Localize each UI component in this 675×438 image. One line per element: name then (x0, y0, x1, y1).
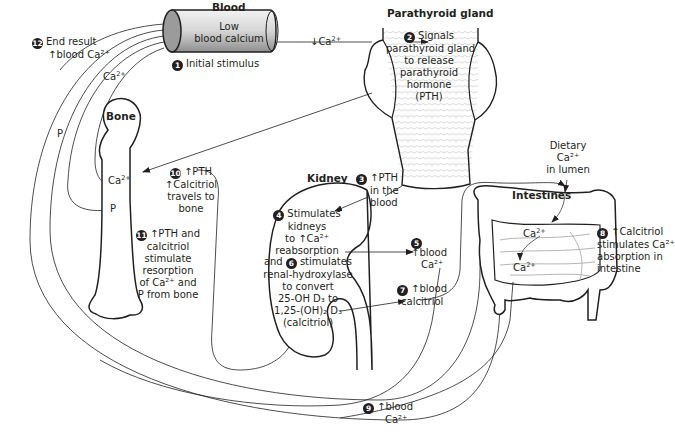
step-number-badge: 4 (273, 210, 284, 221)
low-ca-label: ↓Ca2+ (310, 36, 341, 48)
bone-p-label: P (110, 203, 116, 215)
intestine-ca-label-2: Ca2+ (513, 262, 536, 274)
low-blood-calcium-label: Low blood calcium (184, 21, 274, 45)
step-9: 9↑blood Ca²⁺ (363, 401, 413, 426)
intestines-illustration (474, 186, 617, 320)
step-12: 12End result ↑blood Ca²⁺ (32, 36, 110, 61)
step-number-badge: 6 (286, 258, 297, 269)
step-4: 4Stimulates kidneys to ↑Ca²⁺ reabsorptio… (262, 208, 352, 257)
parathyroid-title: Parathyroid gland (387, 7, 493, 19)
bone-title: Bone (106, 110, 136, 122)
phosphate-label-arc: P (57, 128, 63, 140)
step-number-badge: 3 (356, 174, 367, 185)
step-1: 1Initial stimulus (172, 58, 259, 71)
step-3: 3↑PTH in the blood (356, 172, 399, 209)
step-10: 10↑PTH ↑Calcitriol travels to bone (158, 166, 224, 215)
step-2: 2Signals parathyroid gland to release pa… (386, 30, 472, 103)
ca-ion-label: Ca2+ (103, 71, 126, 83)
step-7: 7↑blood calcitriol (397, 283, 447, 308)
step-number-badge: 9 (363, 403, 374, 414)
step-number-badge: 10 (170, 168, 181, 179)
step-number-badge: 8 (597, 228, 608, 239)
step-6: and 6stimulates renal-hydroxylase to con… (256, 256, 360, 329)
step-number-badge: 7 (397, 285, 408, 296)
step-8: 8↑Calcitriol stimulates Ca²⁺ absorption … (597, 226, 675, 275)
intestine-ca-label-1: Ca2+ (523, 228, 546, 240)
step-number-badge: 11 (136, 230, 147, 241)
step-number-badge: 1 (172, 60, 183, 71)
step-5: 5 ↑blood Ca²⁺ (411, 236, 447, 271)
bone-ca-label: Ca2+ (108, 175, 131, 187)
intestines-title: Intestines (512, 189, 571, 201)
step-11: 11↑PTH and calcitriol stimulate resorpti… (128, 228, 208, 301)
step-number-badge: 2 (404, 32, 415, 43)
kidney-title: Kidney (307, 172, 348, 184)
blood-title: Blood (212, 1, 246, 13)
step-number-badge: 12 (32, 38, 43, 49)
dietary-ca-label: Dietary Ca²⁺ in lumen (543, 140, 593, 176)
